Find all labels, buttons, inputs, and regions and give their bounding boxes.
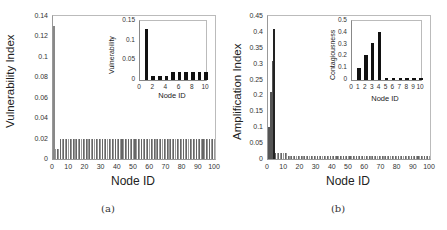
inset-x-tick-label: 4 <box>164 83 168 90</box>
inset-x-tick-label: 6 <box>391 83 395 90</box>
inset-bar <box>145 29 149 80</box>
y-tick-label: 0.4 <box>237 27 263 34</box>
inset-bar <box>184 72 188 80</box>
inset-x-tick-label: 1 <box>356 83 360 90</box>
y-tick-label: 0.05 <box>237 139 263 146</box>
inset-bar <box>412 78 416 80</box>
chart-vulnerability: Vulnerability Index 00.020.040.060.080.1… <box>0 0 224 200</box>
inset-y-tick-label: 0.1 <box>115 36 135 43</box>
inset-bar <box>178 72 182 80</box>
y-tick-label: 0.04 <box>22 114 48 121</box>
inset-bar <box>399 78 403 80</box>
inset-bar <box>151 76 155 80</box>
x-tick-label: 80 <box>393 163 401 170</box>
inset-x-tick-label: 2 <box>363 83 367 90</box>
inset-bar <box>204 72 208 80</box>
inset-bar <box>405 78 409 80</box>
x-tick-label: 10 <box>279 163 287 170</box>
inset-bar <box>385 78 389 80</box>
y-tick-label: 0 <box>237 155 263 162</box>
caption-b: (b) <box>331 203 345 214</box>
caption-a: (a) <box>101 203 115 214</box>
inset-x-tick-label: 5 <box>384 83 388 90</box>
y-tick-label: 0.1 <box>22 52 48 59</box>
inset-x-tick-label: 7 <box>397 83 401 90</box>
x-axis-label: Node ID <box>111 174 155 188</box>
x-tick-label: 100 <box>423 163 435 170</box>
inset-y-tick-label: 0.05 <box>115 55 135 62</box>
x-tick-label: 100 <box>208 163 220 170</box>
y-tick-label: 0.14 <box>22 12 48 19</box>
inset-x-tick-label: 3 <box>370 83 374 90</box>
x-tick-label: 40 <box>328 163 336 170</box>
y-tick-label: 0.12 <box>22 32 48 39</box>
y-tick-label: 0.1 <box>237 123 263 130</box>
y-tick-label: 0.2 <box>237 91 263 98</box>
inset-x-tick-label: 2 <box>150 83 154 90</box>
y-tick-label: 0.25 <box>237 75 263 82</box>
bar <box>53 26 55 159</box>
inset-y-tick-label: 0.5 <box>327 16 347 23</box>
x-tick-label: 70 <box>161 163 169 170</box>
inset-y-tick-label: 0 <box>327 75 347 82</box>
y-tick-label: 0.02 <box>22 134 48 141</box>
x-tick-label: 60 <box>145 163 153 170</box>
inset-bar <box>419 78 423 80</box>
inset-y-tick-label: 0.2 <box>327 51 347 58</box>
x-tick-label: 60 <box>360 163 368 170</box>
y-tick-label: 0 <box>22 155 48 162</box>
x-tick-label: 30 <box>312 163 320 170</box>
inset-bar <box>165 76 169 80</box>
y-axis-label: Vulnerability Index <box>4 34 16 128</box>
inset-bar <box>378 32 382 80</box>
bar <box>214 139 215 159</box>
x-tick-label: 50 <box>129 163 137 170</box>
x-tick-label: 0 <box>265 163 269 170</box>
x-tick-label: 20 <box>80 163 88 170</box>
bar <box>429 156 430 159</box>
inset-bar <box>364 55 368 80</box>
x-tick-label: 90 <box>194 163 202 170</box>
y-tick-label: 0.45 <box>237 12 263 19</box>
inset-plot-area <box>351 20 422 81</box>
y-tick-label: 0.08 <box>22 73 48 80</box>
inset-x-tick-label: 0 <box>349 83 353 90</box>
inset-y-axis-label: Vulnerability <box>108 36 115 74</box>
bar <box>273 29 275 159</box>
inset-y-tick-label: 0 <box>115 75 135 82</box>
inset-bar <box>191 72 195 80</box>
inset-bar <box>171 72 175 80</box>
inset-x-tick-label: 10 <box>416 83 423 90</box>
inset-x-tick-label: 4 <box>377 83 381 90</box>
x-tick-label: 20 <box>295 163 303 170</box>
inset-y-tick-label: 0.1 <box>327 63 347 70</box>
x-tick-label: 90 <box>409 163 417 170</box>
y-tick-label: 0.15 <box>237 107 263 114</box>
inset-x-axis-label: Node ID <box>158 91 186 100</box>
x-axis-label: Node ID <box>326 174 370 188</box>
x-tick-label: 0 <box>50 163 54 170</box>
inset-x-tick-label: 8 <box>404 83 408 90</box>
inset-x-tick-label: 0 <box>137 83 141 90</box>
x-tick-label: 10 <box>64 163 72 170</box>
y-tick-label: 0.06 <box>22 93 48 100</box>
x-tick-label: 70 <box>376 163 384 170</box>
y-tick-label: 0.35 <box>237 43 263 50</box>
inset-bar <box>158 76 162 80</box>
inset-y-tick-label: 0.4 <box>327 28 347 35</box>
inset-x-tick-label: 8 <box>190 83 194 90</box>
x-tick-label: 80 <box>178 163 186 170</box>
inset-bar <box>357 68 361 80</box>
x-tick-label: 40 <box>113 163 121 170</box>
inset-x-tick-label: 9 <box>411 83 415 90</box>
chart-amplification: Amplification Index 00.050.10.150.20.250… <box>224 0 447 200</box>
inset-y-tick-label: 0.3 <box>327 40 347 47</box>
inset-bar <box>198 72 202 80</box>
inset-plot-area <box>139 20 207 81</box>
y-tick-label: 0.3 <box>237 59 263 66</box>
inset-x-axis-label: Node ID <box>371 94 399 103</box>
x-tick-label: 50 <box>344 163 352 170</box>
inset-x-tick-label: 6 <box>177 83 181 90</box>
inset-bar <box>371 43 375 80</box>
inset-x-tick-label: 10 <box>201 83 208 90</box>
